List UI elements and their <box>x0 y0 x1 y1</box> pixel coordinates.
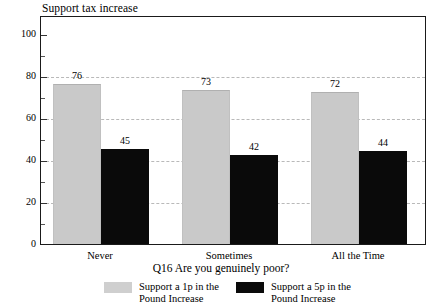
bar-label-allthetime-5p: 44 <box>359 138 407 148</box>
y-tick-label-40: 40 <box>2 155 36 165</box>
bar-allthetime-1p[interactable] <box>311 92 359 244</box>
bar-allthetime-5p[interactable] <box>359 151 407 244</box>
legend-swatch-1p-icon <box>104 282 132 293</box>
x-axis-title: Q16 Are you genuinely poor? <box>0 261 442 275</box>
y-tick-label-100: 100 <box>2 29 36 39</box>
y-tick-label-80: 80 <box>2 71 36 81</box>
chart-legend: Support a 1p in the Pound Increase Suppo… <box>0 281 442 307</box>
bar-label-sometimes-1p: 73 <box>182 77 230 87</box>
chart-title: Support tax increase <box>42 1 138 15</box>
bar-label-never-1p: 76 <box>53 71 101 81</box>
legend-item-1p[interactable]: Support a 1p in the Pound Increase <box>104 281 219 304</box>
bar-never-5p[interactable] <box>101 149 149 244</box>
legend-swatch-5p-icon <box>236 282 264 293</box>
legend-item-5p[interactable]: Support a 5p in the Pound Increase <box>236 281 351 304</box>
bars-layer: 76 45 73 42 72 44 <box>41 17 425 244</box>
bar-never-1p[interactable] <box>53 84 101 244</box>
bar-label-sometimes-5p: 42 <box>230 142 278 152</box>
bar-sometimes-1p[interactable] <box>182 90 230 244</box>
legend-label-1p: Support a 1p in the Pound Increase <box>139 281 219 304</box>
y-tick-label-0: 0 <box>2 239 36 249</box>
y-tick-label-20: 20 <box>2 197 36 207</box>
y-tick-label-60: 60 <box>2 113 36 123</box>
y-axis-labels: 100 80 60 40 20 0 <box>0 16 36 245</box>
bar-chart: Support tax increase 100 80 60 40 20 0 <box>0 0 442 307</box>
bar-label-allthetime-1p: 72 <box>311 79 359 89</box>
legend-label-5p: Support a 5p in the Pound Increase <box>271 281 351 304</box>
bar-sometimes-5p[interactable] <box>230 155 278 244</box>
bar-label-never-5p: 45 <box>101 136 149 146</box>
plot-area: 76 45 73 42 72 44 <box>40 16 426 245</box>
